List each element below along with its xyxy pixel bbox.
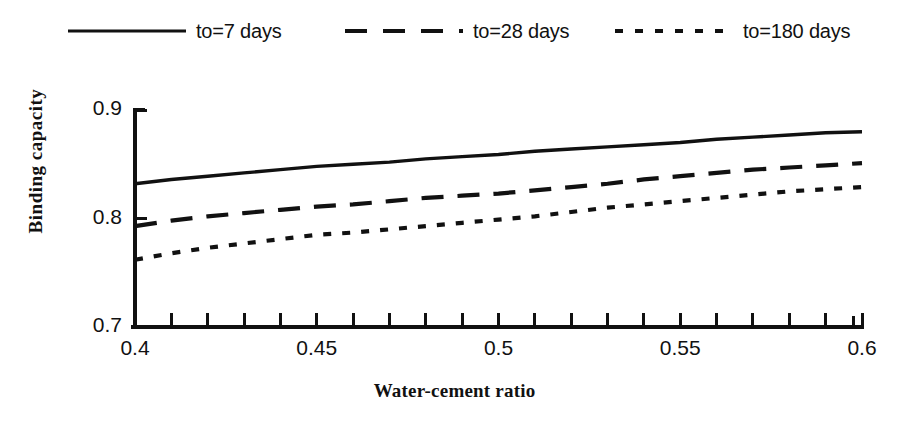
series-line-2: [135, 187, 862, 260]
chart-figure: to=7 days to=28 days to=180 days 0.90.80…: [0, 0, 909, 434]
series-line-0: [135, 132, 862, 184]
chart-series-layer: [0, 0, 909, 434]
